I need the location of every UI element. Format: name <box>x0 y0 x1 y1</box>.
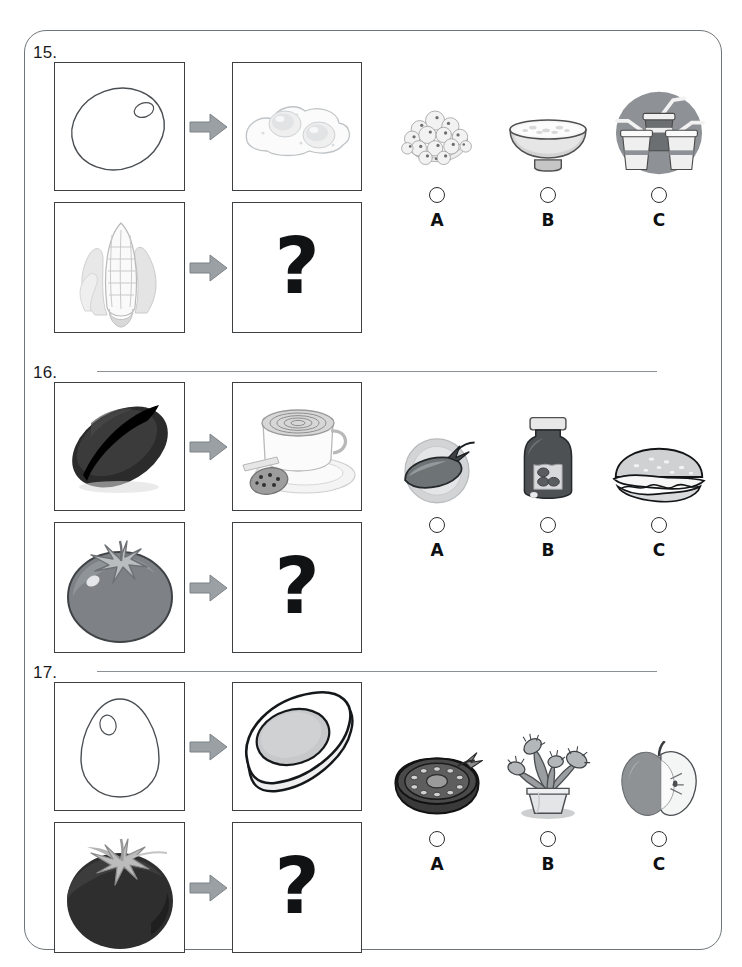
panel-source-coffee-bean <box>54 382 185 511</box>
question-mark-icon: ? <box>233 523 361 652</box>
right-arrow-icon <box>188 251 229 285</box>
answer-bubble-c[interactable] <box>651 517 667 533</box>
answer-bubble-c[interactable] <box>651 831 667 847</box>
answer-option-b[interactable]: B <box>492 733 604 874</box>
flytrap-plant-icon <box>492 733 604 821</box>
panel-result-fried-eggs <box>232 62 362 191</box>
panel-source-tomato <box>54 522 185 653</box>
question-mark-icon: ? <box>233 203 361 332</box>
answer-option-a[interactable]: A <box>381 419 493 560</box>
panel-result-coffee-cup <box>232 382 362 511</box>
sauce-jar-icon <box>492 419 604 507</box>
answer-letter-a: A <box>381 210 493 230</box>
tomato-icon <box>55 523 185 653</box>
answer-option-a[interactable]: A <box>381 89 493 230</box>
popcorn-bowl-icon <box>381 89 493 177</box>
panel-result-unknown: ? <box>232 522 362 653</box>
apple-halved-icon <box>603 733 715 821</box>
answer-letter-a: A <box>381 540 493 560</box>
answer-letter-c: C <box>603 210 715 230</box>
answer-bubble-b[interactable] <box>540 831 556 847</box>
drink-cups-icon <box>603 89 715 177</box>
answer-option-a[interactable]: A <box>381 733 493 874</box>
answer-option-c[interactable]: C <box>603 89 715 230</box>
answer-letter-b: B <box>492 540 604 560</box>
answer-option-b[interactable]: B <box>492 89 604 230</box>
panel-result-halved-egg <box>232 682 362 811</box>
eggplant-plate-icon <box>381 419 493 507</box>
answer-option-b[interactable]: B <box>492 419 604 560</box>
panel-source-corn-cob <box>54 202 185 333</box>
right-arrow-icon <box>188 730 229 764</box>
answer-bubble-a[interactable] <box>429 831 445 847</box>
halved-tomato-icon <box>381 733 493 821</box>
coffee-cup-icon <box>233 383 362 511</box>
question-block-17: 17. <box>25 651 721 951</box>
egg-outline-icon <box>55 683 185 811</box>
question-number: 16. <box>33 363 57 383</box>
corn-cob-icon <box>55 203 185 333</box>
answer-letter-c: C <box>603 854 715 874</box>
panel-result-unknown: ? <box>232 822 362 953</box>
halved-egg-icon <box>233 683 362 811</box>
panel-source-tomato <box>54 822 185 953</box>
question-number: 17. <box>33 663 57 683</box>
right-arrow-icon <box>188 871 229 905</box>
panel-result-unknown: ? <box>232 202 362 333</box>
question-mark-icon: ? <box>233 823 361 952</box>
fried-eggs-icon <box>233 63 362 191</box>
question-number: 15. <box>33 43 57 63</box>
rice-bowl-icon <box>492 89 604 177</box>
coffee-bean-icon <box>55 383 185 511</box>
answer-letter-b: B <box>492 854 604 874</box>
hamburger-icon <box>603 419 715 507</box>
egg-outline-icon <box>55 63 185 191</box>
question-separator <box>97 371 657 372</box>
answer-letter-b: B <box>492 210 604 230</box>
answer-option-c[interactable]: C <box>603 733 715 874</box>
answer-option-c[interactable]: C <box>603 419 715 560</box>
answer-bubble-b[interactable] <box>540 187 556 203</box>
worksheet-page: 15. <box>24 30 722 950</box>
question-block-16: 16. <box>25 351 721 651</box>
right-arrow-icon <box>188 571 229 605</box>
right-arrow-icon <box>188 110 229 144</box>
answer-bubble-a[interactable] <box>429 517 445 533</box>
panel-source-egg-outline <box>54 62 185 191</box>
answer-letter-a: A <box>381 854 493 874</box>
answer-bubble-c[interactable] <box>651 187 667 203</box>
answer-letter-c: C <box>603 540 715 560</box>
question-block-15: 15. <box>25 31 721 351</box>
tomato-icon <box>55 823 185 953</box>
right-arrow-icon <box>188 430 229 464</box>
panel-source-egg-outline <box>54 682 185 811</box>
answer-bubble-a[interactable] <box>429 187 445 203</box>
answer-bubble-b[interactable] <box>540 517 556 533</box>
question-separator <box>97 671 657 672</box>
